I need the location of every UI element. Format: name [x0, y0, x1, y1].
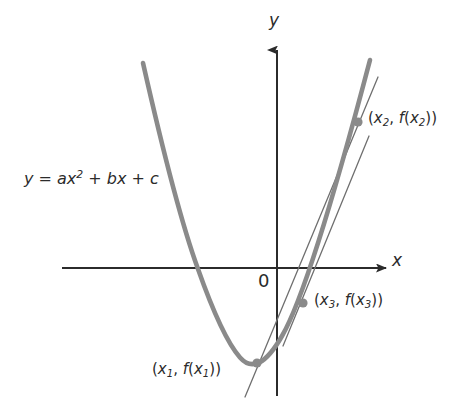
- equation-term2: + bx: [83, 169, 126, 188]
- point-var: x: [374, 109, 383, 127]
- y-axis-label: y: [269, 12, 279, 29]
- equation-label: y = ax2 + bx + c: [24, 170, 159, 187]
- point-label-x3: (x3, f(x3)): [314, 293, 383, 310]
- point-marker-x3: [298, 298, 307, 307]
- point-label-x1: (x1, f(x1)): [152, 362, 221, 379]
- origin-label: 0: [258, 272, 269, 290]
- diagram-canvas: [0, 0, 468, 410]
- secant-line-x3: [283, 136, 369, 346]
- point-var: x: [158, 360, 167, 378]
- paren-close: )): [371, 291, 383, 309]
- equation-term1-coef: ax: [57, 169, 76, 188]
- parabola-secant-diagram: y x 0 y = ax2 + bx + c (x2, f(x2)) (x3, …: [0, 0, 468, 410]
- parabola-curve: [143, 60, 370, 364]
- point-marker-x1: [252, 358, 261, 367]
- point-label-x2: (x2, f(x2)): [368, 111, 437, 128]
- function-var: x: [194, 360, 203, 378]
- point-comma: ,: [389, 109, 399, 127]
- point-comma: ,: [173, 360, 183, 378]
- equation-term3: + c: [126, 169, 158, 188]
- equation-equals: =: [33, 169, 57, 188]
- function-var: x: [410, 109, 419, 127]
- point-comma: ,: [335, 291, 345, 309]
- paren-close: )): [209, 360, 221, 378]
- point-marker-x2: [353, 117, 362, 126]
- function-var: x: [356, 291, 365, 309]
- paren-close: )): [425, 109, 437, 127]
- point-var: x: [320, 291, 329, 309]
- x-axis-label: x: [392, 252, 402, 269]
